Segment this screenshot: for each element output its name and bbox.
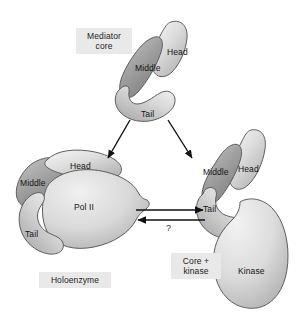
label-question-mark: ? (166, 224, 171, 233)
diagram-artwork (0, 0, 302, 316)
complex-holoenzyme (16, 150, 149, 254)
mediator-complex-diagram: Mediator core Holoenzyme Core + kinase H… (0, 0, 302, 316)
label-core-plus-kinase: Core + kinase (171, 253, 221, 279)
subunit-pol-ii (42, 170, 149, 249)
label-mediator-core: Mediator core (76, 28, 132, 54)
label-holoenzyme: Holoenzyme (39, 272, 111, 288)
arrow-core-to-holoenzyme (108, 120, 130, 158)
subunit-tail-top (115, 86, 175, 121)
arrow-core-to-core-kinase (168, 120, 192, 158)
complex-core-plus-kinase (196, 130, 288, 309)
